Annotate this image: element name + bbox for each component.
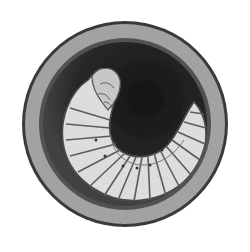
larva-in-cell-drawing [0, 0, 250, 252]
illustration [0, 0, 250, 252]
